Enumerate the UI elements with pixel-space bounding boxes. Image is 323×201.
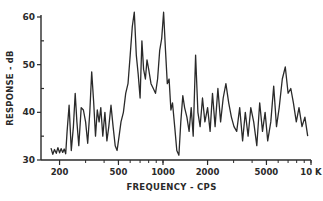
plot-area: 3040506020050010002000500010 K: [0, 0, 323, 201]
frequency-response-chart: 3040506020050010002000500010 K RESPONSE …: [0, 0, 323, 201]
response-curve: [51, 12, 308, 155]
x-axis-label: FREQUENCY - CPS: [0, 182, 323, 192]
x-tick-label: 2000: [196, 167, 220, 177]
y-tick-label: 40: [22, 107, 35, 117]
x-tick-label: 10 K: [300, 167, 322, 177]
y-tick-label: 50: [22, 60, 35, 70]
x-tick-label: 1000: [151, 167, 175, 177]
x-tick-label: 5000: [255, 167, 279, 177]
y-tick-label: 60: [22, 12, 35, 22]
x-tick-label: 200: [51, 167, 69, 177]
x-tick-label: 500: [110, 167, 128, 177]
y-axis-label: RESPONSE - dB: [5, 48, 15, 128]
y-tick-label: 30: [22, 155, 35, 165]
